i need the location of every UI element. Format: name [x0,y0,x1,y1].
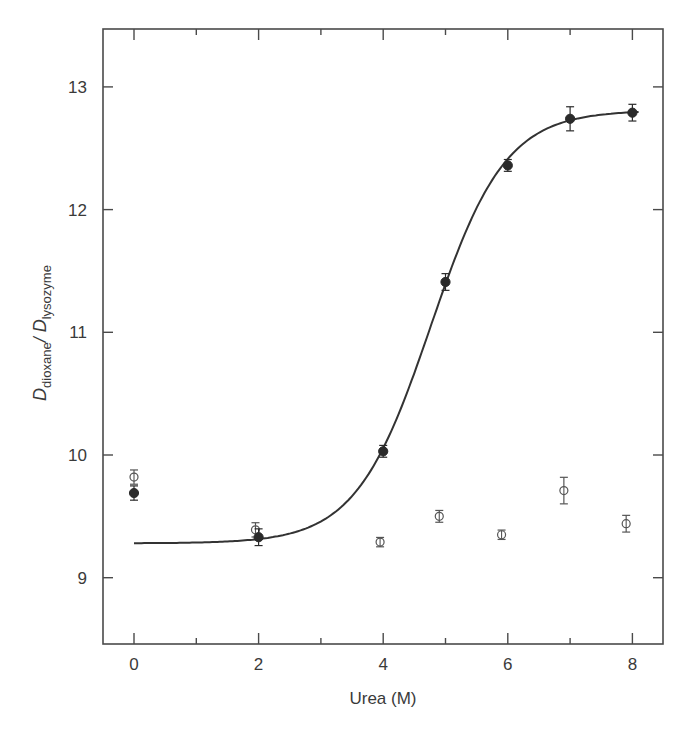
open-data-point [376,537,384,546]
x-axis-label: Urea (M) [349,689,416,708]
x-axis-tick-labels: 02468 [129,655,637,674]
y-tick-label: 9 [78,569,87,588]
x-tick-label: 0 [129,655,138,674]
y-tick-label: 13 [68,78,87,97]
y-tick-label: 12 [68,201,87,220]
y-tick-label: 10 [68,446,87,465]
y-label-d2: D [30,319,50,332]
y-label-sep: / [30,332,50,344]
plot-frame [103,29,663,644]
filled-data-point [628,104,637,121]
y-label-sub2: lysozyme [39,265,54,319]
x-tick-label: 8 [628,655,637,674]
y-tick-label: 11 [69,323,87,342]
series-open-circles [130,470,630,547]
filled-data-point [129,486,138,500]
y-axis-tick-labels: 910111213 [68,78,87,588]
open-data-point [560,477,568,504]
series-filled-circles [129,104,637,545]
open-data-point [622,515,630,532]
y-label-sub1: dioxane [39,342,54,388]
sigmoid-fit-curve [134,112,639,543]
x-tick-label: 6 [503,655,512,674]
open-data-point [130,470,138,484]
open-data-point [435,510,443,522]
x-tick-label: 4 [378,655,387,674]
chart: 02468 910111213 Urea (M) Ddioxane/ Dlyso… [0,0,690,738]
y-axis-ticks [103,87,663,578]
x-axis-ticks [134,29,632,644]
x-tick-label: 2 [254,655,263,674]
y-axis-label: Ddioxane/ Dlysozyme [30,265,54,401]
open-data-point [498,530,506,539]
filled-data-point [566,107,575,131]
y-label-d1: D [30,388,50,401]
